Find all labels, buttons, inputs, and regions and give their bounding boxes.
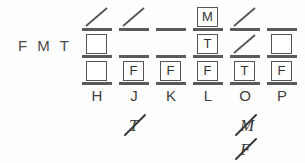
slash-icon — [232, 7, 258, 27]
grid-cell-p-row2[interactable] — [267, 32, 297, 58]
letter-box-f: F — [160, 61, 181, 81]
letter-box-f: F — [271, 61, 292, 81]
grid-cell-o-row1[interactable] — [230, 5, 260, 31]
cell-baseline — [230, 82, 260, 85]
cell-baseline — [119, 28, 149, 31]
grid-cell-o-row3[interactable]: T — [230, 59, 260, 85]
letter-box-t: T — [234, 61, 255, 81]
column-label-h: H — [82, 87, 112, 105]
grid-cell-k-row3[interactable]: F — [156, 59, 186, 85]
handwritten-annotation-t: T — [121, 112, 161, 138]
handwritten-annotation-f: F — [232, 136, 272, 162]
cell-baseline — [193, 82, 223, 85]
cell-baseline — [267, 55, 297, 58]
cell-baseline — [82, 82, 112, 85]
grid-cell-k-row2[interactable] — [156, 32, 186, 58]
grid-cell-k-row1[interactable] — [156, 5, 186, 31]
slash-icon — [121, 7, 147, 27]
cell-baseline — [156, 28, 186, 31]
worksheet-grid: F M T HFJTFKMTFLTOMFFP — [0, 0, 305, 163]
grid-cell-l-row2[interactable]: T — [193, 32, 223, 58]
letter-box-f: F — [197, 61, 218, 81]
cell-baseline — [156, 55, 186, 58]
cell-baseline — [119, 55, 149, 58]
grid-cell-p-row3[interactable]: F — [267, 59, 297, 85]
grid-cell-j-row3[interactable]: F — [119, 59, 149, 85]
row-label-fmt: F M T — [18, 36, 74, 56]
grid-cell-o-row2[interactable] — [230, 32, 260, 58]
cell-baseline — [193, 28, 223, 31]
slash-icon — [84, 7, 110, 27]
cell-baseline — [230, 55, 260, 58]
grid-cell-p-row1[interactable] — [267, 5, 297, 31]
cell-baseline — [119, 82, 149, 85]
cell-baseline — [82, 55, 112, 58]
grid-cell-h-row1[interactable] — [82, 5, 112, 31]
column-label-l: L — [193, 87, 223, 105]
grid-cell-l-row1[interactable]: M — [193, 5, 223, 31]
grid-cell-j-row1[interactable] — [119, 5, 149, 31]
column-label-o: O — [230, 87, 260, 105]
slash-icon — [232, 34, 258, 54]
cell-baseline — [82, 28, 112, 31]
letter-box-f: F — [123, 61, 144, 81]
empty-box — [86, 34, 107, 54]
cell-baseline — [156, 82, 186, 85]
cell-baseline — [193, 55, 223, 58]
empty-box — [86, 61, 107, 81]
letter-box-m: M — [197, 7, 218, 27]
handwritten-annotation-m: M — [232, 112, 272, 138]
cell-baseline — [230, 28, 260, 31]
column-label-p: P — [267, 87, 297, 105]
grid-cell-h-row3[interactable] — [82, 59, 112, 85]
cell-baseline — [267, 82, 297, 85]
grid-cell-l-row3[interactable]: F — [193, 59, 223, 85]
grid-cell-h-row2[interactable] — [82, 32, 112, 58]
column-label-j: J — [119, 87, 149, 105]
cell-baseline — [267, 28, 297, 31]
grid-cell-j-row2[interactable] — [119, 32, 149, 58]
column-label-k: K — [156, 87, 186, 105]
letter-box-t: T — [197, 34, 218, 54]
empty-box — [271, 34, 292, 54]
